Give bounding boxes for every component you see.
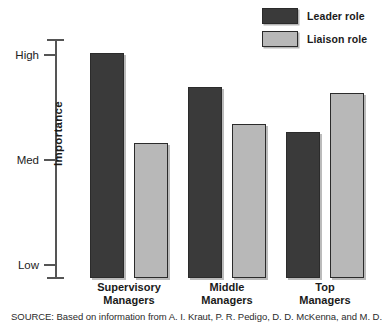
bar-leader-role-supervisory-managers [90, 53, 124, 278]
bar-liaison-role-middle-managers [232, 124, 266, 278]
plot-area: Importance HighMedLow SupervisoryManager… [0, 0, 383, 290]
category-label-top-managers: TopManagers [265, 281, 383, 307]
y-tick-med [44, 159, 56, 161]
bar-liaison-role-supervisory-managers [134, 143, 168, 278]
y-tick-label-med: Med [17, 154, 39, 166]
bar-leader-role-top-managers [286, 132, 320, 278]
y-tick-label-high: High [15, 49, 39, 61]
y-axis-top-cap [47, 39, 64, 41]
source-note: SOURCE: Based on information from A. I. … [11, 311, 382, 322]
bar-leader-role-middle-managers [188, 87, 222, 279]
y-tick-label-low: Low [18, 259, 39, 271]
y-tick-low [44, 264, 56, 266]
y-axis-bottom-cap [47, 277, 64, 279]
figure-bar-chart: Leader role Liaison role Importance High… [0, 0, 383, 327]
category-label-line: Top [265, 281, 383, 294]
bar-liaison-role-top-managers [330, 93, 364, 278]
y-axis-title: Importance [52, 101, 64, 166]
y-tick-high [44, 54, 56, 56]
category-label-line: Managers [265, 294, 383, 307]
